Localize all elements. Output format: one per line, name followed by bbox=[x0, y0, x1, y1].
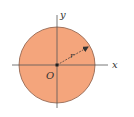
origin-label: O bbox=[46, 70, 54, 81]
origin-dot bbox=[56, 64, 59, 67]
x-axis-label: x bbox=[112, 59, 118, 70]
circle-diagram: y x O r bbox=[0, 0, 134, 117]
y-axis-label: y bbox=[59, 9, 66, 20]
